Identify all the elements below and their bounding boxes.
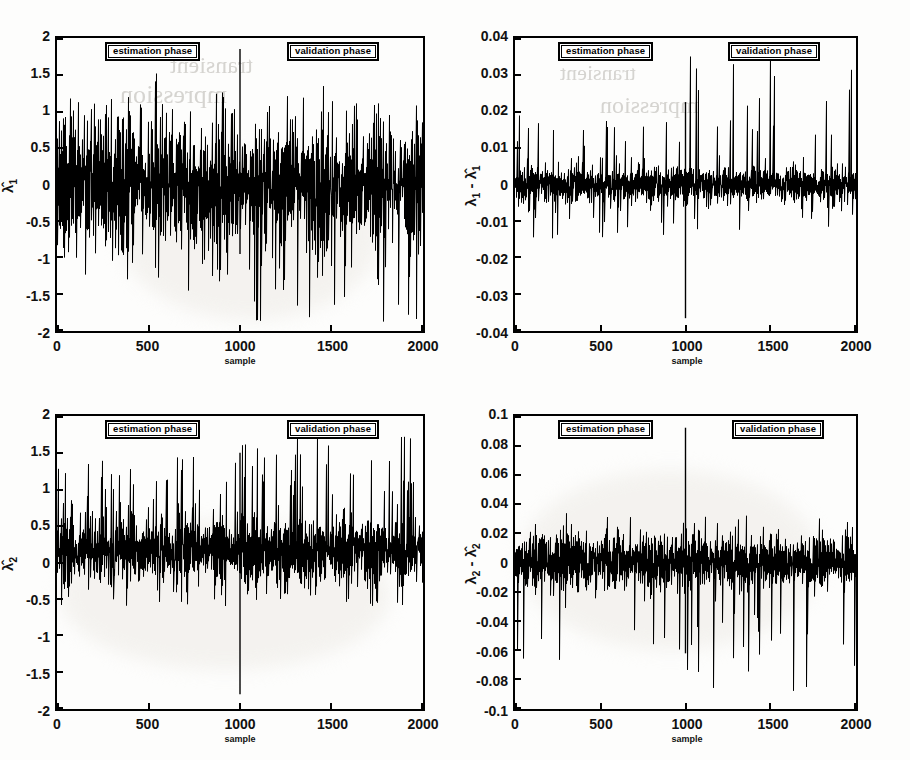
ytick-mark (57, 452, 63, 454)
ytick-label: -2 (0, 703, 50, 719)
ytick-label: -0.02 (455, 251, 508, 267)
panel-top-right: 0.04 0.03 0.02 0.01 0 -0.01 -0.02 -0.03 … (455, 0, 910, 380)
ytick-label: -0.04 (455, 614, 508, 630)
ytick-label: -1 (0, 251, 50, 267)
ytick-label: -1.5 (0, 666, 50, 682)
xtick-mark (685, 325, 687, 331)
ytick-mark (515, 503, 521, 505)
signal-trace-lambda-hat-2 (57, 416, 423, 709)
signal-trace-lambda-hat-1 (57, 38, 423, 331)
xtick-label: 1000 (224, 338, 255, 354)
xtick-mark (330, 703, 332, 709)
xtick-label: 2000 (840, 716, 871, 732)
xtick-mark (239, 325, 241, 331)
xtick-label: 1500 (757, 338, 788, 354)
xtick-mark (685, 703, 687, 709)
xtick-mark (854, 325, 856, 331)
ytick-label: 0.04 (455, 28, 508, 44)
annotation-estimation-phase: estimation phase (105, 420, 200, 439)
ytick-mark (515, 293, 521, 295)
ytick-mark (515, 38, 521, 40)
ytick-mark (515, 532, 521, 534)
ytick-mark (515, 74, 521, 76)
xtick-label: 0 (53, 338, 61, 354)
ytick-mark (57, 634, 63, 636)
xtick-mark (148, 703, 150, 709)
plot-area-top-left (55, 36, 425, 333)
xtick-mark (769, 325, 771, 331)
ytick-label: -0.5 (0, 592, 50, 608)
xtick-label: 500 (136, 716, 159, 732)
ytick-label: -1 (0, 629, 50, 645)
xtick-label: 500 (136, 338, 159, 354)
xtick-mark (515, 703, 517, 709)
ytick-mark (57, 416, 63, 418)
xtick-label: 1000 (671, 716, 702, 732)
yaxis-title: λ̂1 (0, 179, 19, 193)
xtick-label: 1000 (224, 716, 255, 732)
ytick-mark (515, 591, 521, 593)
annotation-validation-phase: validation phase (728, 42, 820, 61)
xaxis-title: sample (671, 734, 702, 744)
plot-area-bottom-left (55, 414, 425, 711)
xaxis-title: sample (224, 734, 255, 744)
ytick-label: 1 (0, 480, 50, 496)
xtick-label: 500 (589, 338, 612, 354)
yaxis-title: λ̂2 (0, 557, 19, 571)
xtick-mark (239, 703, 241, 709)
ytick-label: -0.01 (455, 214, 508, 230)
ytick-label: -1.5 (0, 288, 50, 304)
xtick-mark (148, 325, 150, 331)
xtick-mark (600, 325, 602, 331)
ytick-mark (515, 562, 521, 564)
ytick-label: -2 (0, 325, 50, 341)
annotation-validation-phase: validation phase (287, 420, 379, 439)
ytick-mark (515, 678, 521, 680)
xtick-label: 0 (53, 716, 61, 732)
ytick-label: -0.02 (455, 584, 508, 600)
xtick-label: 1500 (317, 338, 348, 354)
xtick-label: 1500 (757, 716, 788, 732)
ytick-mark (57, 598, 63, 600)
ytick-label: -0.5 (0, 214, 50, 230)
ytick-label: 0.04 (455, 495, 508, 511)
annotation-estimation-phase: estimation phase (558, 42, 653, 61)
ytick-mark (515, 416, 521, 418)
ytick-mark (57, 671, 63, 673)
xtick-label: 1500 (317, 716, 348, 732)
ytick-mark (515, 474, 521, 476)
ytick-label: 1.5 (0, 443, 50, 459)
ytick-mark (515, 620, 521, 622)
xaxis-title: sample (671, 356, 702, 366)
ytick-label: 0.08 (455, 436, 508, 452)
ytick-mark (57, 256, 63, 258)
xtick-label: 0 (511, 716, 519, 732)
ytick-mark (57, 562, 63, 564)
ytick-mark (57, 111, 63, 113)
panel-bottom-right: 0.1 0.08 0.06 0.04 0.02 0 -0.02 -0.04 -0… (455, 380, 910, 760)
ytick-label: -0.1 (455, 703, 508, 719)
xtick-mark (57, 325, 59, 331)
ytick-mark (57, 74, 63, 76)
xtick-label: 0 (511, 338, 519, 354)
ytick-mark (57, 293, 63, 295)
xtick-label: 2000 (407, 716, 438, 732)
ytick-label: 0.02 (455, 525, 508, 541)
annotation-estimation-phase: estimation phase (105, 42, 200, 61)
ytick-mark (57, 220, 63, 222)
xtick-mark (854, 703, 856, 709)
annotation-estimation-phase: estimation phase (558, 420, 653, 439)
ytick-mark (515, 445, 521, 447)
figure-page: transient mpression transient mpression … (0, 0, 910, 760)
ytick-label: 0.01 (455, 139, 508, 155)
xtick-mark (421, 325, 423, 331)
annotation-validation-phase: validation phase (287, 42, 379, 61)
ytick-label: 2 (0, 406, 50, 422)
ytick-mark (57, 489, 63, 491)
yaxis-title: λ2 - λ̂2 (462, 543, 482, 584)
signal-trace-error-2 (515, 416, 856, 709)
ytick-label: 0.03 (455, 65, 508, 81)
ytick-label: 1.5 (0, 65, 50, 81)
ytick-mark (57, 525, 63, 527)
ytick-label: 0.02 (455, 102, 508, 118)
